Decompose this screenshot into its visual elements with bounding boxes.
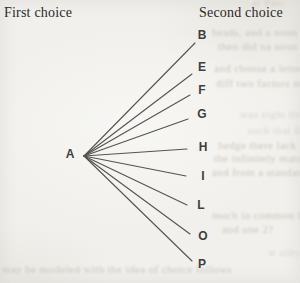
node-f: F [198,84,205,96]
line-a-to-o [84,156,190,234]
scanned-page: at Pasc heads, and a noun ve then did na… [0,0,300,283]
node-o: O [198,230,207,242]
node-h: H [199,141,208,153]
node-l: L [197,199,204,211]
node-i: I [201,170,204,182]
node-p: P [198,258,206,270]
line-a-to-b [84,43,195,156]
line-a-to-f [84,95,190,156]
node-b: B [198,29,207,41]
choice-fan-lines [0,0,300,283]
line-a-to-e [84,74,192,156]
node-e: E [198,61,206,73]
node-a: A [66,148,75,160]
line-a-to-p [84,156,192,261]
node-g: G [197,108,206,120]
line-a-to-i [84,156,186,176]
line-a-to-l [84,156,187,205]
